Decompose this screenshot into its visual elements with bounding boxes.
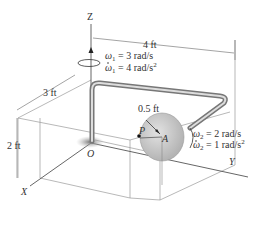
x-axis-line bbox=[30, 143, 91, 186]
disk bbox=[140, 113, 184, 185]
origin-label: O bbox=[87, 148, 94, 159]
dimension-3ft-label: 3 ft bbox=[43, 87, 57, 98]
z-axis-label: Z bbox=[87, 11, 93, 22]
omega-1-annotation: ω1 = 3 rad/s ω1 = 4 rad/s2 bbox=[105, 50, 157, 75]
dimension-4ft-label: 4 ft bbox=[143, 39, 157, 50]
z-axis-arrow-icon bbox=[89, 47, 94, 53]
omega-2-annotation: ω2 = 2 rad/s ω2 = 1 rad/s2 bbox=[193, 128, 245, 152]
dimension-2ft-label: 2 ft bbox=[7, 140, 21, 151]
disk-radius-label: 0.5 ft bbox=[138, 103, 159, 114]
svg-text:ω1 = 4 rad/s2: ω1 = 4 rad/s2 bbox=[105, 61, 157, 75]
rotation-arrow-1-icon bbox=[78, 60, 100, 67]
point-a-label: A bbox=[161, 133, 169, 144]
diagram-canvas: Z Y X O P A 4 ft 3 ft 2 ft 0.5 ft ω1 = 3… bbox=[0, 0, 265, 234]
point-p-label: P bbox=[138, 125, 145, 136]
x-axis-label: X bbox=[20, 186, 28, 197]
